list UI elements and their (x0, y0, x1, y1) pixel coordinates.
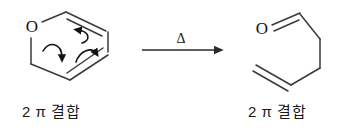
bond-c1-c2 (300, 14, 320, 39)
product-structure: O (253, 13, 320, 91)
bond-o-c2 (42, 12, 66, 22)
bond-co-outer (272, 13, 300, 25)
electron-arrow-top (78, 30, 88, 43)
reaction-arrow-group: Δ (142, 31, 216, 50)
product-oxygen-atom-label: O (256, 19, 268, 38)
bond-c5-c6 (31, 64, 70, 80)
product-caption: 2 π 결합 (248, 100, 306, 121)
bond-c3-c4 (291, 68, 320, 85)
reactant-caption: 2 π 결합 (22, 100, 80, 121)
bond-co-inner (274, 20, 299, 31)
reaction-scheme-figure: O (0, 0, 355, 130)
heat-delta-symbol: Δ (176, 31, 185, 46)
electron-arrow-left (43, 45, 62, 58)
reactant-oxygen-atom-label: O (26, 17, 38, 36)
reactant-structure: O (26, 12, 108, 80)
